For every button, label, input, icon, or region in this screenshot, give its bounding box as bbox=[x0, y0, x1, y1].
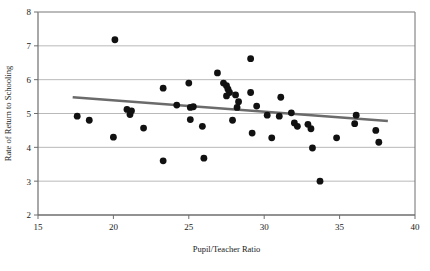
x-tick-label-15: 15 bbox=[34, 222, 44, 232]
data-point bbox=[160, 85, 167, 92]
data-point bbox=[190, 103, 197, 110]
data-point bbox=[74, 113, 81, 120]
data-point bbox=[185, 80, 192, 87]
data-point bbox=[264, 112, 271, 119]
data-point bbox=[333, 134, 340, 141]
data-point bbox=[309, 145, 316, 152]
x-tick-label-40: 40 bbox=[411, 222, 421, 232]
x-tick-label-35: 35 bbox=[335, 222, 345, 232]
data-point bbox=[294, 123, 301, 130]
data-point bbox=[160, 157, 167, 164]
chart-canvas: 2345678152025303540Pupil/Teacher RatioRa… bbox=[0, 0, 430, 271]
data-point bbox=[86, 117, 93, 124]
data-point bbox=[277, 94, 284, 101]
data-point bbox=[232, 91, 239, 98]
data-point bbox=[140, 125, 147, 132]
y-tick-label-5: 5 bbox=[27, 109, 32, 119]
y-tick-label-6: 6 bbox=[27, 75, 32, 85]
data-point bbox=[353, 112, 360, 119]
y-axis-title: Rate of Return to Schooling bbox=[3, 65, 13, 161]
y-tick-label-2: 2 bbox=[27, 210, 32, 220]
data-point bbox=[223, 93, 230, 100]
data-point bbox=[276, 113, 283, 120]
data-point bbox=[229, 117, 236, 124]
y-tick-label-7: 7 bbox=[27, 41, 32, 51]
data-point bbox=[187, 116, 194, 123]
data-point bbox=[249, 130, 256, 137]
data-point bbox=[247, 89, 254, 96]
data-point bbox=[247, 55, 254, 62]
x-tick-label-20: 20 bbox=[109, 222, 119, 232]
data-point bbox=[317, 178, 324, 185]
data-point bbox=[253, 103, 260, 110]
x-tick-label-25: 25 bbox=[184, 222, 194, 232]
y-tick-label-3: 3 bbox=[27, 177, 32, 187]
data-point bbox=[199, 123, 206, 130]
data-point bbox=[128, 107, 135, 114]
data-point bbox=[173, 102, 180, 109]
data-point bbox=[214, 70, 221, 77]
y-tick-label-8: 8 bbox=[27, 7, 32, 17]
data-point bbox=[234, 104, 241, 111]
data-point bbox=[372, 127, 379, 134]
data-point bbox=[235, 98, 242, 105]
x-tick-label-30: 30 bbox=[260, 222, 270, 232]
y-tick-label-4: 4 bbox=[27, 143, 32, 153]
data-point bbox=[112, 36, 119, 43]
data-point bbox=[305, 121, 312, 128]
data-point bbox=[351, 120, 358, 127]
scatter-chart: 2345678152025303540Pupil/Teacher RatioRa… bbox=[0, 0, 430, 271]
data-point bbox=[375, 139, 382, 146]
data-point bbox=[200, 155, 207, 162]
data-point bbox=[288, 109, 295, 116]
data-point bbox=[268, 134, 275, 141]
data-point bbox=[110, 134, 117, 141]
x-axis-title: Pupil/Teacher Ratio bbox=[193, 244, 261, 254]
